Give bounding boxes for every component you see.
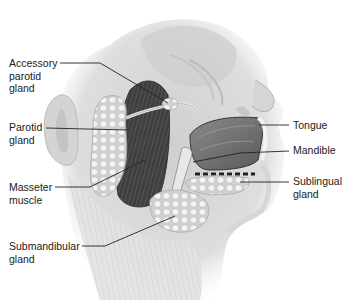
label-parotid-gland: Parotid gland <box>9 121 42 146</box>
label-tongue: Tongue <box>293 119 327 132</box>
label-masseter-muscle: Masseter muscle <box>9 181 52 206</box>
label-submandibular-gland: Submandibular gland <box>9 240 80 265</box>
label-sublingual-gland: Sublingual gland <box>293 175 342 200</box>
tongue <box>190 117 263 170</box>
ear <box>44 95 78 165</box>
label-accessory-parotid-gland: Accessory parotid gland <box>9 57 57 95</box>
label-mandible: Mandible <box>293 144 336 157</box>
accessory-parotid-gland <box>162 98 178 110</box>
anatomy-figure: Accessory parotid gland Parotid gland Ma… <box>0 0 351 306</box>
